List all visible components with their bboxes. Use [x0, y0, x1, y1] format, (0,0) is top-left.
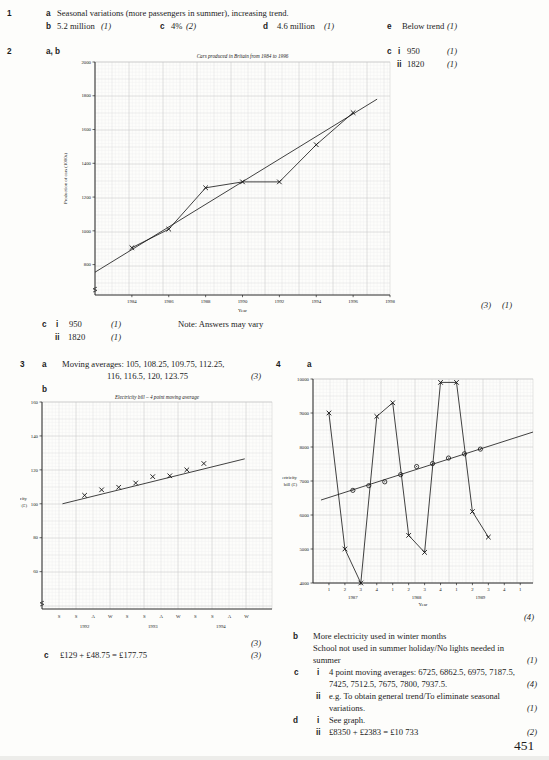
svg-text:W: W: [244, 614, 249, 619]
q4d-ii-label: ii: [316, 728, 321, 737]
svg-text:100: 100: [31, 502, 39, 507]
q1a-letter: a: [46, 9, 51, 18]
svg-text:140: 140: [31, 434, 39, 439]
svg-text:800: 800: [84, 262, 92, 267]
svg-text:4000: 4000: [299, 581, 309, 586]
q4c-ii-label: ii: [316, 692, 321, 701]
svg-text:160: 160: [31, 400, 39, 405]
q2c-bottom-letter: c: [42, 320, 47, 329]
q4c-letter: c: [294, 668, 299, 677]
svg-text:1992: 1992: [80, 624, 90, 629]
svg-text:Year: Year: [238, 308, 247, 313]
quarterly-bills-chart: 4000500060007000800090001000012341234123…: [282, 368, 544, 610]
svg-text:2: 2: [344, 587, 347, 592]
q1b-mark: (1): [101, 22, 111, 32]
svg-text:bill (£): bill (£): [284, 482, 298, 487]
electricity-moving-average-chart: 6080100120140160SSAWSSAWSSAW199219931994…: [20, 392, 290, 638]
svg-text:S: S: [75, 614, 78, 619]
q2c-i-value: 950: [407, 47, 420, 57]
q1d-value: 4.6 million: [277, 22, 315, 32]
svg-text:S: S: [194, 614, 197, 619]
svg-text:1800: 1800: [81, 93, 91, 98]
svg-text:80: 80: [33, 535, 38, 540]
q3c-mark: (3): [251, 651, 261, 661]
svg-text:A: A: [91, 614, 95, 619]
q3a-letter: a: [42, 360, 47, 369]
svg-text:1992: 1992: [275, 299, 285, 304]
q2-graph-mark-2: (1): [502, 301, 512, 311]
svg-text:S: S: [58, 614, 61, 619]
q2c-bottom-ii-mark: (1): [111, 333, 121, 343]
svg-text:S: S: [143, 614, 146, 619]
q3a-mark: (3): [251, 372, 261, 382]
q3a-line1: Moving averages: 105, 108.25, 109.75, 11…: [62, 360, 224, 370]
q2-number: 2: [7, 47, 12, 56]
q4d-ii-text: £8350 + £2383 = £10 733: [329, 728, 418, 738]
q4c-i-mark: (4): [527, 680, 537, 690]
q2c-bottom-i-value: 950: [69, 320, 82, 330]
q1c-letter: c: [160, 22, 165, 31]
svg-text:Electricity: Electricity: [282, 475, 298, 480]
q4b-line1: More electricity used in winter months: [313, 632, 446, 642]
q1d-letter: d: [263, 22, 268, 31]
svg-text:3: 3: [423, 587, 426, 592]
q2c-bottom-i-mark: (1): [111, 320, 121, 330]
svg-text:5000: 5000: [299, 547, 309, 552]
q4d-i-text: See graph.: [329, 716, 365, 726]
svg-text:1000: 1000: [81, 229, 91, 234]
q4b-mark: (1): [527, 656, 537, 666]
svg-text:1996: 1996: [348, 299, 358, 304]
svg-text:Cars produced in Britain from: Cars produced in Britain from 1984 to 19…: [197, 53, 289, 59]
svg-text:1987: 1987: [348, 595, 358, 600]
svg-text:120: 120: [31, 468, 39, 473]
q4d-letter: d: [293, 716, 298, 725]
q4c-ii-mark: (1): [527, 704, 537, 714]
svg-text:S: S: [126, 614, 129, 619]
svg-text:3: 3: [487, 587, 490, 592]
svg-text:Production of cars (1000s): Production of cars (1000s): [63, 153, 68, 204]
svg-text:1986: 1986: [164, 299, 174, 304]
q4c-i-label: i: [317, 668, 319, 677]
textbook-answers-page: 1 a Seasonal variations (more passengers…: [0, 0, 549, 760]
q4c-i-line2: 7425, 7512.5, 7675, 7800, 7937.5.: [329, 680, 447, 690]
svg-text:W: W: [108, 614, 113, 619]
svg-text:8000: 8000: [299, 445, 309, 450]
svg-text:2: 2: [471, 587, 474, 592]
svg-text:9000: 9000: [299, 411, 309, 416]
q3c-value: £129 + £48.75 = £177.75: [60, 651, 147, 661]
svg-text:1600: 1600: [81, 127, 91, 132]
cars-produced-chart: 8001000120014001600180020001984198619881…: [60, 50, 400, 318]
q2c-bottom-ii-value: 1820: [68, 333, 85, 343]
svg-text:bill (£): bill (£): [20, 503, 27, 508]
q4-number: 4: [276, 360, 281, 369]
q4a-graph-mark: (4): [524, 613, 534, 623]
q2c-ii-mark: (1): [447, 60, 457, 70]
q4c-ii-line2: variations.: [329, 704, 365, 714]
svg-text:4: 4: [439, 587, 442, 592]
svg-text:1993: 1993: [148, 624, 158, 629]
q1b-letter: b: [46, 22, 51, 31]
q4d-ii-mark: (2): [527, 728, 537, 738]
q2ab-letter: a, b: [46, 47, 60, 56]
svg-text:4: 4: [503, 587, 506, 592]
page-edge: [0, 756, 549, 760]
q2c-ii-value: 1820: [407, 60, 424, 70]
svg-text:1984: 1984: [127, 299, 137, 304]
svg-text:A: A: [160, 614, 164, 619]
svg-text:A: A: [228, 614, 232, 619]
svg-text:6000: 6000: [299, 513, 309, 518]
q1e-letter: e: [387, 22, 392, 31]
q1c-value: 4%: [171, 22, 182, 32]
q4c-ii-line1: e.g. To obtain general trend/To eliminat…: [329, 692, 500, 702]
q2c-bottom-ii-label: ii: [55, 333, 60, 342]
q2c-i-mark: (1): [447, 47, 457, 57]
q4b-letter: b: [293, 632, 298, 641]
q2-graph-mark-1: (3): [481, 301, 491, 311]
svg-text:Year: Year: [419, 602, 428, 607]
svg-text:1400: 1400: [81, 161, 91, 166]
q4c-i-line1: 4 point moving averages: 6725, 6862.5, 6…: [329, 668, 515, 678]
svg-text:Electricity bill – 4 point mov: Electricity bill – 4 point moving averag…: [114, 394, 200, 400]
svg-text:4: 4: [376, 587, 379, 592]
q1a-text: Seasonal variations (more passengers in …: [57, 9, 289, 19]
svg-text:1: 1: [455, 587, 458, 592]
